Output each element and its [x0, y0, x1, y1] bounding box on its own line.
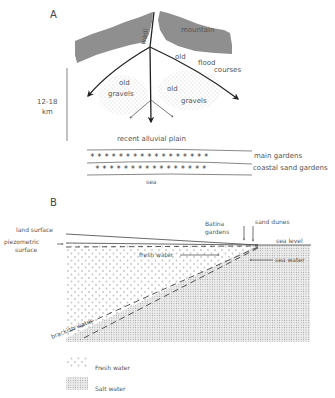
coastal-gardens-stars: **************** [95, 165, 209, 174]
sea-water-label: sea water [275, 256, 305, 263]
sand-dunes-label: sand dunes [255, 218, 290, 225]
batina-label-2: gardens [205, 228, 229, 236]
coastal-sand-gardens-label: coastal sand gardens [253, 164, 328, 172]
sea-level-label: sea level [276, 237, 303, 244]
gravels-left-old-label: old [119, 79, 130, 87]
batina-label-1: Batina [205, 220, 225, 227]
legend-fresh-label: Fresh water [95, 364, 131, 371]
recent-alluvial-plain-label: recent alluvial plain [117, 135, 186, 143]
piezometric-label-1: piezometric [4, 238, 39, 246]
garden-strip-bottom-line [87, 174, 252, 175]
gravels-right-gravels-label: gravels [181, 97, 207, 105]
fresh-water-label: fresh water [139, 251, 174, 258]
legend-salt-label: Salt water [95, 385, 126, 392]
legend-salt-swatch [66, 377, 88, 390]
panel-a-letter: A [50, 9, 57, 20]
panel-b-letter: B [50, 197, 57, 208]
legend-fresh-swatch [66, 356, 88, 368]
main-gardens-label: main gardens [254, 152, 302, 160]
garden-strip-middle-line [87, 162, 252, 164]
courses-label: courses [214, 66, 241, 74]
flood-label: flood [198, 59, 215, 67]
flood-course-center [150, 47, 151, 122]
main-gardens-stars: ***************** [90, 153, 211, 162]
old-label: old [175, 53, 186, 61]
scale-unit: km [42, 108, 53, 116]
diagram-canvas: A wadi mountain old flood courses old gr… [0, 0, 335, 398]
garden-strip-top-line [87, 149, 252, 151]
land-surface-label: land surface [16, 226, 53, 233]
piezometric-label-2: surface [15, 246, 37, 253]
scale-value: 12-18 [37, 98, 57, 106]
gravels-right-old-label: old [167, 85, 178, 93]
mountain-label: mountain [181, 26, 214, 34]
sea-label: sea [146, 178, 157, 185]
gravels-left-gravels-label: gravels [108, 90, 134, 98]
